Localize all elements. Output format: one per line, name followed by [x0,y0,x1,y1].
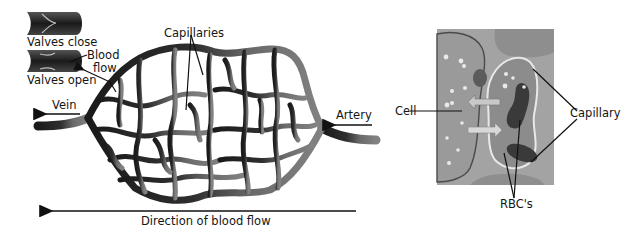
capillary-network [38,47,376,200]
label-capillary: Capillary [570,107,621,120]
valve-closed-illustration [27,12,82,35]
label-valves-open: Valves open [27,74,96,87]
label-capillaries: Capillaries [164,27,224,40]
label-rbcs: RBC's [500,198,533,211]
label-cell: Cell [395,105,417,118]
label-blood-flow-2: flow [93,62,117,75]
label-artery: Artery [336,109,372,122]
label-direction-of-blood-flow: Direction of blood flow [141,215,271,228]
capillary-cell-illustration [437,29,554,185]
label-vein: Vein [52,99,77,112]
